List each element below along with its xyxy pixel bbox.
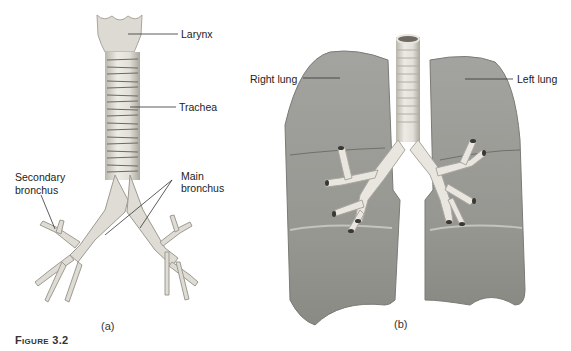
figure-number: Figure 3.2: [15, 334, 68, 346]
anatomy-illustration: [0, 0, 571, 351]
label-secondary-bronchus-line1: Secondary: [15, 171, 65, 183]
label-trachea: Trachea: [179, 101, 217, 113]
caption-panel-b: (b): [394, 318, 407, 330]
label-left-lung: Left lung: [517, 73, 557, 85]
label-right-lung: Right lung: [250, 73, 297, 85]
caption-panel-a: (a): [101, 320, 114, 332]
label-secondary-bronchus-line2: bronchus: [15, 184, 58, 196]
label-larynx: Larynx: [181, 28, 213, 40]
label-main-bronchus-line1: Main: [181, 170, 204, 182]
panel-b-lungs-illustration: [285, 35, 525, 325]
panel-a-trachea-illustration: [35, 15, 198, 302]
label-main-bronchus-line2: bronchus: [181, 182, 224, 194]
